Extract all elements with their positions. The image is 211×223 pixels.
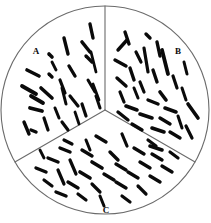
bacterium-a-24 [31,130,36,132]
agar-plate-figure: A B C [0,0,211,223]
bacterium-a-7 [49,74,52,77]
sector-label-c: C [103,205,110,215]
plate-diagram: A B C [0,0,211,223]
sector-label-a: A [33,46,40,56]
sector-label-b: B [175,46,181,56]
bacterium-a-3 [49,54,52,57]
